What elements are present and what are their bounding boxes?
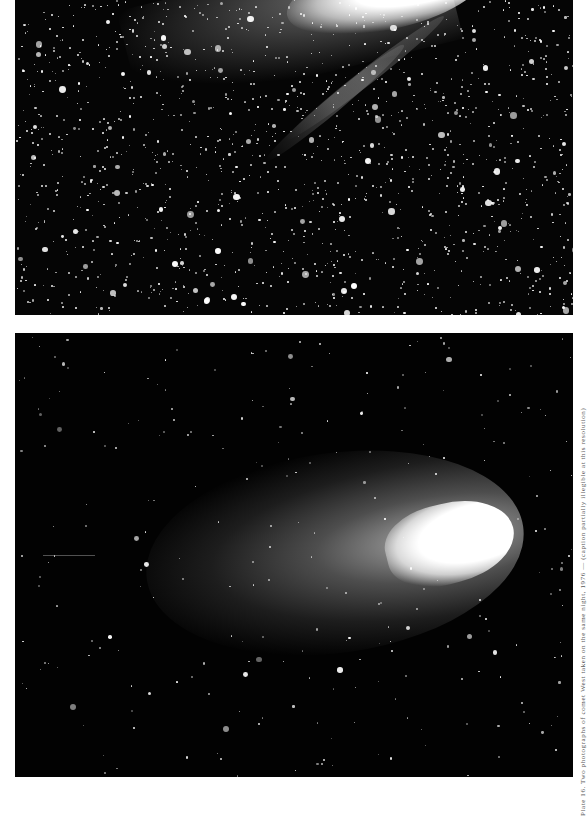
star: [332, 203, 334, 205]
star: [283, 108, 285, 110]
star: [163, 431, 165, 433]
star: [212, 435, 214, 437]
star: [239, 18, 241, 20]
star: [45, 185, 47, 187]
star: [21, 276, 23, 278]
star: [96, 307, 97, 308]
star: [398, 193, 399, 194]
star: [446, 147, 447, 148]
star: [378, 97, 379, 98]
star: [467, 634, 472, 639]
star: [571, 293, 572, 294]
star: [401, 156, 403, 158]
star: [63, 119, 65, 121]
star: [97, 276, 99, 278]
star: [87, 195, 88, 196]
star: [26, 130, 28, 132]
star: [333, 204, 335, 206]
star: [302, 206, 303, 207]
star: [510, 309, 512, 311]
star: [355, 273, 356, 274]
star: [546, 61, 548, 63]
star: [260, 96, 262, 98]
star: [219, 199, 221, 201]
star: [465, 116, 467, 118]
star: [424, 26, 425, 27]
star: [481, 205, 483, 207]
star: [58, 136, 60, 138]
star: [20, 174, 21, 175]
star: [339, 212, 341, 214]
star: [206, 274, 208, 276]
star: [283, 251, 284, 252]
star: [145, 134, 147, 136]
star: [425, 108, 426, 109]
star: [332, 765, 333, 766]
star: [21, 555, 23, 557]
star: [176, 681, 177, 682]
star: [550, 470, 551, 471]
star: [511, 304, 513, 306]
star: [440, 169, 442, 171]
star: [148, 500, 149, 501]
star: [551, 213, 553, 215]
star: [455, 59, 457, 61]
star: [417, 4, 419, 6]
star: [41, 70, 43, 72]
star: [271, 233, 273, 235]
star: [559, 589, 561, 591]
star: [523, 711, 525, 713]
star: [53, 47, 55, 49]
star: [473, 140, 475, 142]
star: [431, 175, 432, 176]
star: [321, 206, 323, 208]
star: [136, 35, 138, 37]
star: [472, 38, 476, 42]
star: [508, 107, 509, 108]
star: [406, 117, 408, 119]
star: [47, 208, 49, 210]
star: [235, 271, 237, 273]
star: [248, 12, 250, 14]
star: [53, 526, 54, 527]
star: [432, 120, 433, 121]
star: [19, 137, 21, 139]
star: [299, 81, 301, 83]
star: [305, 112, 306, 113]
star: [416, 258, 423, 265]
star: [147, 70, 152, 75]
star: [488, 126, 489, 127]
star: [125, 1, 126, 2]
star: [392, 91, 398, 97]
star: [331, 261, 333, 263]
star: [329, 353, 330, 354]
star: [82, 246, 84, 248]
star: [350, 157, 351, 158]
star: [238, 269, 240, 271]
star: [194, 104, 195, 105]
star: [258, 219, 260, 221]
star: [116, 152, 118, 154]
star: [66, 251, 67, 252]
star: [275, 57, 277, 59]
star: [532, 285, 534, 287]
star: [482, 186, 484, 188]
star: [228, 26, 230, 28]
star: [443, 342, 445, 344]
star: [141, 291, 143, 293]
star: [429, 144, 431, 146]
star: [304, 230, 306, 232]
star: [118, 118, 120, 120]
star: [540, 148, 542, 150]
star: [386, 163, 388, 165]
star: [239, 8, 241, 10]
star: [79, 52, 81, 54]
star: [257, 138, 259, 140]
star: [120, 119, 122, 121]
star: [55, 73, 56, 74]
star: [558, 9, 560, 11]
star: [389, 201, 391, 203]
star: [472, 111, 474, 113]
star: [281, 272, 283, 274]
star: [326, 91, 327, 92]
